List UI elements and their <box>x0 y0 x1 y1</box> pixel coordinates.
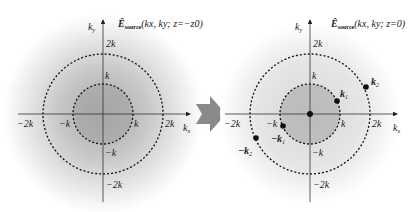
right-title: Êsource(kx, ky; z=0) <box>330 18 406 30</box>
tick-k-x: k <box>134 118 139 129</box>
point-neg-k1 <box>280 123 286 129</box>
point-k1 <box>334 98 340 104</box>
tick-k-x: k <box>341 118 346 129</box>
tick-neg-k-y: −k <box>312 147 324 158</box>
tick-neg-k-x: −k <box>59 118 71 129</box>
origin-point <box>307 111 313 117</box>
tick-2k-y: 2k <box>313 38 323 49</box>
point-neg-k2 <box>253 135 259 141</box>
tick-neg-2k-y: −2k <box>313 179 330 190</box>
tick-k-y: k <box>312 70 317 81</box>
left-panel: ky kx Êsource(kx, ky; z=−z0) 2k k −k −2k… <box>3 14 203 212</box>
diagram: ky kx Êsource(kx, ky; z=−z0) 2k k −k −2k… <box>0 0 414 212</box>
ky-axis-label: ky <box>295 21 302 33</box>
tick-neg-2k-x: −2k <box>224 118 241 129</box>
tick-neg-k-y: −k <box>105 147 117 158</box>
tick-neg-2k-y: −2k <box>106 179 123 190</box>
tick-2k-x: 2k <box>372 118 382 129</box>
tick-2k-x: 2k <box>165 118 175 129</box>
tick-2k-y: 2k <box>106 38 116 49</box>
tick-neg-2k-x: −2k <box>17 118 34 129</box>
right-panel: ky kx Êsource(kx, ky; z=0) 2k k −k −2k −… <box>220 18 406 204</box>
tick-k-y: k <box>105 70 110 81</box>
point-k2 <box>363 84 369 90</box>
tick-neg-k-x: −k <box>266 118 278 129</box>
